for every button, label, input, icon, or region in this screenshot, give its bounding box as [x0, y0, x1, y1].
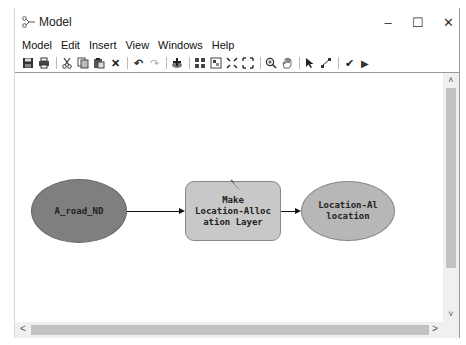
- tool-label-line-1: Make: [195, 195, 271, 206]
- menu-view[interactable]: View: [125, 39, 149, 51]
- model-app-icon: [22, 16, 36, 28]
- horizontal-scroll-thumb[interactable]: [31, 325, 429, 335]
- scroll-up-button[interactable]: ˄: [443, 75, 459, 87]
- resize-grip[interactable]: [443, 322, 459, 338]
- undo-icon[interactable]: ↶: [131, 56, 145, 70]
- window-title: Model: [39, 15, 72, 29]
- hammer-icon: [229, 178, 241, 190]
- input-node-label: A_road_ND: [55, 206, 104, 217]
- toolbar: ✕ ↶ ↷: [15, 54, 374, 72]
- toolbar-separator: [189, 57, 190, 69]
- model-canvas-area: A_road_ND Make Location-Alloc ation Laye…: [15, 72, 459, 338]
- close-button[interactable]: ✕: [433, 12, 463, 32]
- connector-tool-to-output[interactable]: [281, 211, 295, 212]
- output-label-line-2: location: [318, 211, 378, 222]
- vertical-scrollbar[interactable]: ˄ ˅: [443, 73, 459, 323]
- connect-icon[interactable]: [319, 56, 333, 70]
- tool-label-line-2: Location-Alloc: [195, 206, 271, 217]
- model-window: Model – ☐ ✕ Model Edit Insert View Windo…: [14, 8, 460, 338]
- cut-icon[interactable]: [60, 56, 74, 70]
- output-label-line-1: Location-Al: [318, 200, 378, 211]
- tool-label-line-3: ation Layer: [195, 217, 271, 228]
- toolbar-separator: [338, 57, 339, 69]
- vertical-scroll-thumb[interactable]: [446, 88, 456, 268]
- menu-windows[interactable]: Windows: [158, 39, 203, 51]
- delete-icon[interactable]: ✕: [108, 56, 122, 70]
- menu-bar: Model Edit Insert View Windows Help: [15, 36, 243, 54]
- output-node-label: Location-Al location: [318, 200, 378, 222]
- save-icon[interactable]: [21, 56, 35, 70]
- scroll-down-button[interactable]: ˅: [443, 309, 459, 321]
- connector-input-to-tool[interactable]: [127, 211, 179, 212]
- scroll-right-button[interactable]: >: [429, 323, 441, 337]
- menu-edit[interactable]: Edit: [61, 39, 80, 51]
- tool-node-label: Make Location-Alloc ation Layer: [195, 195, 271, 228]
- print-icon[interactable]: [37, 56, 51, 70]
- auto-layout-icon[interactable]: [193, 56, 207, 70]
- toolbar-separator: [166, 57, 167, 69]
- horizontal-scrollbar[interactable]: < >: [15, 322, 443, 338]
- maximize-button[interactable]: ☐: [403, 12, 433, 32]
- run-icon[interactable]: ▶: [358, 56, 372, 70]
- output-data-node[interactable]: Location-Al location: [301, 181, 395, 241]
- minimize-button[interactable]: –: [373, 12, 403, 32]
- fixed-zoom-in-icon[interactable]: [225, 56, 239, 70]
- toolbar-separator: [127, 57, 128, 69]
- full-extent-icon[interactable]: [209, 56, 223, 70]
- menu-help[interactable]: Help: [212, 39, 235, 51]
- select-icon[interactable]: [303, 56, 317, 70]
- add-data-icon[interactable]: [170, 56, 184, 70]
- validate-icon[interactable]: ✔: [342, 56, 356, 70]
- fixed-zoom-out-icon[interactable]: [241, 56, 255, 70]
- model-canvas[interactable]: A_road_ND Make Location-Alloc ation Laye…: [15, 73, 443, 323]
- copy-icon[interactable]: [76, 56, 90, 70]
- toolbar-separator: [260, 57, 261, 69]
- toolbar-separator: [56, 57, 57, 69]
- title-bar[interactable]: Model – ☐ ✕: [15, 8, 459, 36]
- scroll-left-button[interactable]: <: [17, 323, 29, 337]
- pan-icon[interactable]: [280, 56, 294, 70]
- zoom-in-icon[interactable]: [264, 56, 278, 70]
- input-data-node[interactable]: A_road_ND: [31, 179, 127, 243]
- paste-icon[interactable]: [92, 56, 106, 70]
- menu-insert[interactable]: Insert: [89, 39, 117, 51]
- toolbar-separator: [299, 57, 300, 69]
- tool-node[interactable]: Make Location-Alloc ation Layer: [185, 181, 281, 241]
- menu-model[interactable]: Model: [22, 39, 52, 51]
- redo-icon[interactable]: ↷: [147, 56, 161, 70]
